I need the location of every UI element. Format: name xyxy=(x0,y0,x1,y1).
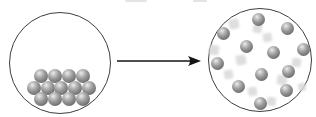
particle-sphere xyxy=(211,57,224,70)
diagram-canvas xyxy=(0,0,316,117)
motion-blur-ghost xyxy=(297,82,306,91)
cropped-text-artifact xyxy=(125,0,147,2)
particle-sphere xyxy=(255,68,268,81)
motion-blur-ghost xyxy=(223,69,233,79)
motion-blur-ghost xyxy=(266,96,276,106)
particle-sphere xyxy=(267,46,280,59)
motion-blur-ghost xyxy=(208,44,219,55)
particle-sphere xyxy=(232,80,245,93)
particle-sphere xyxy=(240,40,253,53)
particle-sphere xyxy=(254,97,267,110)
particle-sphere xyxy=(48,92,62,106)
particle-sphere xyxy=(297,43,310,56)
particle-sphere xyxy=(76,92,90,106)
motion-blur-ghost xyxy=(262,32,272,42)
particle-sphere xyxy=(62,92,76,106)
particle-sphere xyxy=(280,84,293,97)
particle-sphere xyxy=(34,92,48,106)
particle-sphere xyxy=(281,22,294,35)
motion-blur-ghost xyxy=(247,86,257,96)
transition-right-arrow xyxy=(117,54,201,68)
motion-blur-ghost xyxy=(235,54,247,66)
motion-blur-ghost xyxy=(228,18,240,30)
particle-sphere xyxy=(217,27,230,40)
particle-sphere xyxy=(252,13,265,26)
particle-sphere xyxy=(282,65,295,78)
cropped-text-artifact xyxy=(193,0,207,2)
